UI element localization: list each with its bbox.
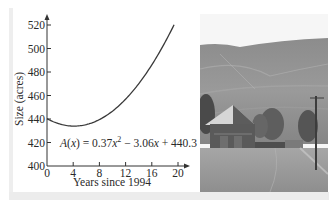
x-axis bbox=[47, 164, 190, 169]
y-axis bbox=[45, 14, 50, 166]
x-tick-label: 0 bbox=[44, 167, 50, 179]
farmland-barn-photo bbox=[200, 14, 328, 192]
y-tick-label: 440 bbox=[28, 113, 46, 125]
chart: 400420440460480500520 048121620 A(x) = 0… bbox=[0, 0, 200, 200]
y-tick-label: 500 bbox=[28, 43, 46, 55]
y-tick-label: 480 bbox=[28, 66, 46, 78]
function-curve bbox=[47, 25, 174, 126]
figure-panel: 400420440460480500520 048121620 A(x) = 0… bbox=[0, 0, 334, 208]
y-tick-label: 400 bbox=[28, 160, 46, 172]
y-tick-label: 460 bbox=[28, 90, 46, 102]
y-tick-label: 420 bbox=[28, 137, 46, 149]
x-tick-label: 20 bbox=[172, 167, 184, 179]
y-ticks: 400420440460480500520 bbox=[28, 19, 51, 172]
equation-annotation: A(x) = 0.37x2 − 3.06x + 440.3 bbox=[59, 135, 197, 150]
y-tick-label: 520 bbox=[28, 19, 46, 31]
y-axis-title: Size (acres) bbox=[13, 72, 26, 126]
x-axis-title: Years since 1994 bbox=[73, 176, 151, 188]
